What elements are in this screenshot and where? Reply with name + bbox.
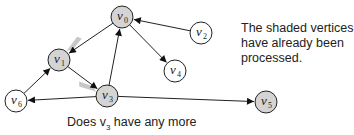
- vertex-v3: v3: [96, 85, 118, 107]
- vertex-subscript: 1: [61, 59, 65, 68]
- edge-v6-v1: [24, 68, 50, 93]
- edge-v3-v0: [109, 29, 120, 85]
- vertex-subscript: 4: [177, 70, 181, 79]
- vertex-v4: v4: [164, 60, 186, 82]
- edge-v3-v6: [28, 97, 96, 101]
- edge-v3-v5: [118, 96, 254, 101]
- vertex-v2: v2: [190, 22, 212, 44]
- vertex-subscript: 3: [109, 95, 113, 104]
- edge-v0-v1: [69, 23, 113, 53]
- vertex-subscript: 2: [203, 32, 207, 41]
- vertex-label: v: [196, 24, 202, 39]
- vertex-v0: v0: [111, 6, 133, 28]
- vertex-subscript: 0: [124, 16, 128, 25]
- vertex-v5: v5: [255, 91, 277, 113]
- edge-v2-v0: [134, 19, 190, 30]
- caption-prefix: Does v: [67, 115, 106, 129]
- vertex-label: v: [54, 51, 60, 66]
- processed-note: The shaded vertices have already been pr…: [241, 21, 354, 66]
- vertex-subscript: 6: [18, 100, 22, 109]
- vertex-label: v: [261, 93, 267, 108]
- vertex-label: v: [11, 92, 17, 107]
- vertex-v1: v1: [48, 49, 70, 71]
- vertex-v6: v6: [5, 90, 27, 112]
- vertex-label: v: [170, 62, 176, 77]
- vertex-subscript: 5: [268, 101, 272, 110]
- edge-v0-v4: [130, 25, 167, 63]
- caption: Does v3 have any more: [67, 115, 197, 132]
- caption-suffix: have any more: [110, 115, 196, 129]
- vertex-label: v: [102, 87, 108, 102]
- vertex-label: v: [117, 8, 123, 23]
